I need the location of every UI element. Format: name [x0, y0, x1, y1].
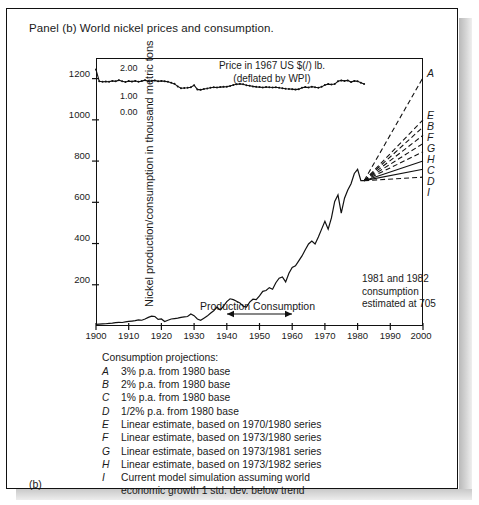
- legend-key-H: H: [102, 458, 121, 471]
- y-tick-200: 200: [46, 273, 90, 284]
- y-tick-1000: 1000: [46, 108, 90, 119]
- legend-key-B: B: [102, 378, 121, 391]
- page-root: Panel (b) World nickel prices and consum…: [0, 0, 479, 505]
- legend-key-C: C: [102, 391, 121, 404]
- price-series-markers: [95, 69, 365, 91]
- legend-item-G: G Linear estimate, based on 1973/1981 se…: [102, 445, 321, 458]
- chart-curves: [96, 58, 423, 326]
- y-tick-600: 600: [46, 191, 90, 202]
- projection-label-A: A: [427, 67, 434, 79]
- legend-key-D: D: [102, 405, 121, 418]
- projection-line-A: [364, 78, 423, 181]
- projection-line-B: [364, 127, 423, 181]
- legend-text-I: Current model simulation assuming world: [121, 471, 310, 484]
- x-tick-1920: 1920: [151, 330, 172, 341]
- legend-text-F: Linear estimate, based on 1973/1980 seri…: [121, 431, 321, 444]
- legend-text-D: 1/2% p.a. from 1980 base: [121, 405, 239, 418]
- x-tick-1960: 1960: [282, 330, 303, 341]
- legend-text-G: Linear estimate, based on 1973/1981 seri…: [121, 445, 321, 458]
- legend: Consumption projections: A 3% p.a. from …: [102, 351, 321, 498]
- axis-ticks: [92, 79, 423, 330]
- x-tick-1990: 1990: [380, 330, 401, 341]
- legend-text-C: 1% p.a. from 1980 base: [121, 391, 230, 404]
- legend-key-G: G: [102, 445, 121, 458]
- consumption-series-line: [96, 169, 364, 324]
- legend-heading: Consumption projections:: [102, 351, 321, 364]
- projection-lines: [364, 78, 423, 181]
- x-tick-1980: 1980: [347, 330, 368, 341]
- legend-item-F: F Linear estimate, based on 1973/1980 se…: [102, 431, 321, 444]
- legend-key-I: I: [102, 471, 121, 484]
- legend-key-E: E: [102, 418, 121, 431]
- legend-item-B: B 2% p.a. from 1980 base: [102, 378, 321, 391]
- legend-continuation: economic growth 1 std. dev. below trend: [102, 484, 321, 497]
- projection-label-I: I: [427, 186, 430, 198]
- legend-item-C: C 1% p.a. from 1980 base: [102, 391, 321, 404]
- panel-title: Panel (b) World nickel prices and consum…: [29, 22, 274, 34]
- x-tick-1950: 1950: [249, 330, 270, 341]
- x-tick-1940: 1940: [216, 330, 237, 341]
- page-shadow-right: [459, 18, 472, 499]
- x-tick-1910: 1910: [118, 330, 139, 341]
- y-tick-800: 800: [46, 150, 90, 161]
- legend-text-E: Linear estimate, based on 1970/1980 seri…: [121, 418, 321, 431]
- projection-line-F: [364, 135, 423, 180]
- figure-label: (b): [29, 478, 42, 490]
- legend-item-E: E Linear estimate, based on 1970/1980 se…: [102, 418, 321, 431]
- y-tick-1200: 1200: [46, 67, 90, 78]
- y-tick-400: 400: [46, 232, 90, 243]
- x-tick-1930: 1930: [184, 330, 205, 341]
- legend-item-H: H Linear estimate, based on 1973/1982 se…: [102, 458, 321, 471]
- x-tick-1970: 1970: [314, 330, 335, 341]
- legend-text-A: 3% p.a. from 1980 base: [121, 365, 230, 378]
- legend-item-A: A 3% p.a. from 1980 base: [102, 365, 321, 378]
- legend-item-I: I Current model simulation assuming worl…: [102, 471, 321, 484]
- legend-key-A: A: [102, 365, 121, 378]
- production-consumption-arrow: [227, 311, 292, 317]
- chart-plot-area: Nickel production/consumption in thousan…: [96, 58, 423, 326]
- legend-text-B: 2% p.a. from 1980 base: [121, 378, 230, 391]
- x-tick-2000: 2000: [410, 330, 431, 341]
- legend-item-D: D 1/2% p.a. from 1980 base: [102, 405, 321, 418]
- x-tick-1900: 1900: [85, 330, 106, 341]
- legend-key-F: F: [102, 431, 121, 444]
- legend-text-H: Linear estimate, based on 1973/1982 seri…: [121, 458, 321, 471]
